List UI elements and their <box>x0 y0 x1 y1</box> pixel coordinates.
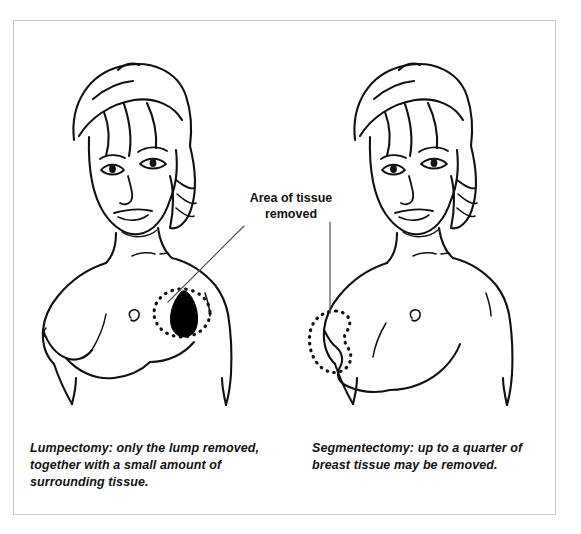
fringe-strand-2-left <box>124 104 130 156</box>
hair-lock-1-right <box>457 180 475 189</box>
mouth-right <box>395 210 433 213</box>
hair-outline-left <box>73 64 194 228</box>
female-torso-lumpectomy <box>43 64 232 405</box>
breast-right-outline-left <box>150 342 194 362</box>
eyebrow-right-left <box>138 147 167 152</box>
eyebrow-right-right <box>419 147 448 152</box>
nose-left <box>120 176 132 204</box>
eyebrow-left-left <box>100 155 125 159</box>
annotation-label-line1: Area of tissue <box>233 190 349 206</box>
collarbone-tick-right <box>441 253 449 254</box>
lower-lip-right <box>399 215 429 220</box>
fringe-strand-3-right <box>428 103 437 148</box>
fringe-strand-1-left <box>104 112 109 156</box>
collarbone-left <box>132 253 155 256</box>
tumor-mass <box>170 291 197 337</box>
shoulder-right-right <box>453 258 509 314</box>
neck-left-right <box>387 233 397 263</box>
torso-side-right-left <box>222 378 226 405</box>
pupil-left-right <box>390 165 397 173</box>
areola-left <box>129 310 139 321</box>
torso-side-left-right <box>353 378 357 404</box>
fringe-strand-2-right <box>405 104 411 156</box>
leader-line-to-lumpectomy <box>168 226 244 302</box>
breast-underline-right <box>345 385 390 392</box>
caption-lumpectomy: Lumpectomy: only the lump removed, toget… <box>30 440 270 491</box>
hair-top-tuft-left <box>118 64 139 70</box>
hair-lock-1-left <box>176 180 194 189</box>
breast-underline-left <box>66 358 150 378</box>
breast-crease-right <box>373 323 386 357</box>
torso-side-right-right <box>503 378 507 405</box>
neck-left-left <box>106 233 116 263</box>
pupil-right-left <box>150 159 157 167</box>
female-torso-segmentectomy <box>310 64 513 405</box>
fringe-strand-3-left <box>147 103 156 148</box>
annotation-label: Area of tissue removed <box>233 190 349 222</box>
hair-part-left <box>93 81 133 99</box>
annotation-label-line2: removed <box>233 206 349 222</box>
mouth-left <box>114 210 152 213</box>
nose-right <box>401 176 413 204</box>
hair-outline-right <box>354 64 475 228</box>
caption-segmentectomy: Segmentectomy: up to a quarter of breast… <box>312 440 547 474</box>
lower-lip-left <box>118 215 148 220</box>
breast-profile-wedge-right <box>324 330 345 385</box>
illustration-root: Area of tissue removed Lumpectomy: only … <box>0 0 581 534</box>
shoulder-left-right <box>324 263 387 330</box>
eyebrow-left-right <box>381 155 406 159</box>
armpit-crease-right <box>486 293 491 316</box>
breast-profile-left <box>43 330 92 360</box>
arm-right-left <box>226 314 231 405</box>
hair-top-tuft-right <box>399 64 420 70</box>
pupil-right-right <box>431 159 438 167</box>
hair-part-right <box>374 81 414 99</box>
shoulder-left-left <box>43 263 106 330</box>
breast-crease-left <box>92 314 106 350</box>
arm-inner-left <box>54 364 72 404</box>
breast-right-outline-right <box>390 344 460 390</box>
areola-right <box>410 310 420 321</box>
torso-side-left <box>72 378 76 404</box>
collarbone-tick-left <box>160 253 168 254</box>
collarbone-right <box>413 253 436 256</box>
pupil-left-left <box>109 165 116 173</box>
arm-right-right <box>507 314 512 405</box>
jaw-right <box>451 150 458 200</box>
jaw-left <box>170 150 177 200</box>
fringe-strand-1-right <box>385 112 390 156</box>
